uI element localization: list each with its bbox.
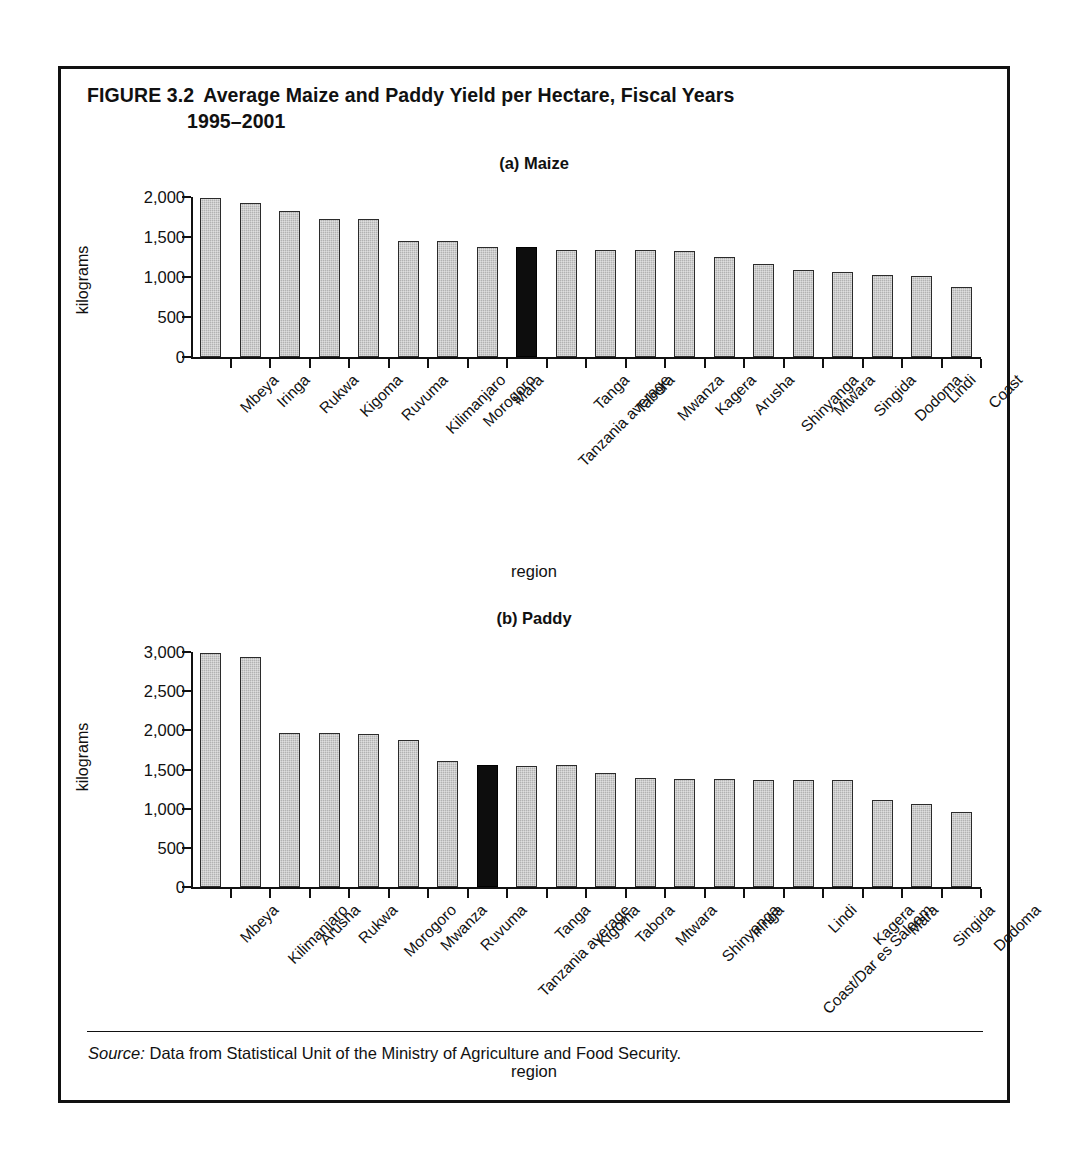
x-tick-mark bbox=[269, 359, 271, 368]
figure-title: FIGURE 3.2Average Maize and Paddy Yield … bbox=[87, 83, 977, 135]
x-tick-label-text: Rukwa bbox=[355, 901, 401, 947]
bar bbox=[595, 250, 616, 357]
y-tick-mark bbox=[182, 847, 191, 849]
x-tick-label-text: Coast bbox=[985, 371, 1026, 412]
y-tick-label: 2,500 bbox=[144, 682, 185, 701]
x-axis-title-maize: region bbox=[61, 562, 1007, 581]
y-tick-label: 500 bbox=[157, 838, 185, 857]
figure-title-line-1: Average Maize and Paddy Yield per Hectar… bbox=[203, 84, 734, 106]
y-axis-line bbox=[191, 652, 193, 887]
bar bbox=[872, 800, 893, 887]
y-tick-mark bbox=[182, 729, 191, 731]
y-tick-label: 1,500 bbox=[144, 760, 185, 779]
panel-title-maize: (a) Maize bbox=[61, 154, 1007, 173]
x-tick-label: Dodoma bbox=[990, 901, 1044, 955]
y-tick-label: 1,000 bbox=[144, 268, 185, 287]
x-tick-mark bbox=[309, 359, 311, 368]
x-tick-label: Iringa bbox=[748, 901, 788, 941]
bar bbox=[477, 765, 498, 887]
bar bbox=[200, 198, 221, 357]
bar bbox=[240, 657, 261, 887]
y-tick-mark bbox=[182, 769, 191, 771]
x-tick-mark bbox=[704, 889, 706, 898]
x-tick-mark bbox=[901, 359, 903, 368]
x-tick-mark bbox=[467, 889, 469, 898]
bar bbox=[556, 765, 577, 887]
x-tick-label-text: Mbeya bbox=[236, 901, 282, 947]
x-tick-mark bbox=[388, 889, 390, 898]
x-tick-mark bbox=[309, 889, 311, 898]
chart-maize: kilograms 05001,0001,5002,000 MbeyaIring… bbox=[61, 189, 1007, 599]
x-tick-label-text: Iringa bbox=[748, 901, 788, 941]
bar bbox=[832, 780, 853, 887]
x-tick-label: Mbeya bbox=[236, 371, 282, 417]
y-tick-label: 1,000 bbox=[144, 799, 185, 818]
x-tick-label-text: Lindi bbox=[825, 901, 861, 937]
bar bbox=[872, 275, 893, 357]
source-label: Source: bbox=[88, 1044, 145, 1062]
y-tick-mark bbox=[182, 276, 191, 278]
x-tick-mark bbox=[348, 889, 350, 898]
x-tick-label-text: Mbeya bbox=[236, 371, 282, 417]
bar bbox=[358, 219, 379, 357]
x-tick-label-text: Iringa bbox=[274, 371, 314, 411]
x-tick-mark bbox=[743, 359, 745, 368]
source-note: Source: Data from Statistical Unit of th… bbox=[88, 1044, 681, 1063]
x-tick-mark bbox=[388, 359, 390, 368]
bar bbox=[477, 247, 498, 357]
bar bbox=[635, 250, 656, 357]
y-tick-mark bbox=[182, 886, 191, 888]
y-tick-mark bbox=[182, 196, 191, 198]
x-tick-mark bbox=[664, 359, 666, 368]
x-tick-mark bbox=[743, 889, 745, 898]
bar bbox=[674, 779, 695, 887]
bar bbox=[398, 740, 419, 887]
y-tick-mark bbox=[182, 236, 191, 238]
x-tick-label: Lindi bbox=[825, 901, 861, 937]
bar bbox=[793, 780, 814, 887]
bar bbox=[556, 250, 577, 357]
bar bbox=[911, 276, 932, 357]
x-tick-mark bbox=[506, 889, 508, 898]
y-tick-label: 1,500 bbox=[144, 228, 185, 247]
x-tick-label: Rukwa bbox=[316, 371, 362, 417]
x-tick-mark bbox=[585, 359, 587, 368]
x-axis-title-paddy: region bbox=[61, 1062, 1007, 1081]
y-tick-label: 2,000 bbox=[144, 188, 185, 207]
bar bbox=[674, 251, 695, 357]
bar bbox=[437, 761, 458, 887]
x-tick-mark bbox=[980, 359, 982, 368]
x-tick-mark bbox=[980, 889, 982, 898]
figure-number: FIGURE 3.2 bbox=[87, 84, 194, 106]
y-tick-mark bbox=[182, 690, 191, 692]
source-text: Data from Statistical Unit of the Minist… bbox=[145, 1044, 681, 1062]
x-tick-label: Ruvuma bbox=[398, 371, 452, 425]
y-axis-line bbox=[191, 197, 193, 357]
x-tick-mark bbox=[783, 359, 785, 368]
bar bbox=[516, 247, 537, 357]
x-tick-mark bbox=[427, 889, 429, 898]
x-tick-mark bbox=[941, 359, 943, 368]
x-tick-mark bbox=[230, 359, 232, 368]
x-tick-label: Arusha bbox=[751, 371, 798, 418]
y-tick-mark bbox=[182, 651, 191, 653]
figure-container: FIGURE 3.2Average Maize and Paddy Yield … bbox=[58, 66, 1010, 1103]
bar bbox=[635, 778, 656, 887]
x-tick-mark bbox=[546, 359, 548, 368]
bar bbox=[753, 264, 774, 357]
y-tick-label: 500 bbox=[157, 308, 185, 327]
x-tick-mark bbox=[230, 889, 232, 898]
x-tick-mark bbox=[269, 889, 271, 898]
bar bbox=[911, 804, 932, 887]
bar bbox=[319, 219, 340, 357]
bar bbox=[398, 241, 419, 357]
x-tick-label: Mtwara bbox=[672, 901, 721, 950]
x-tick-mark bbox=[941, 889, 943, 898]
x-tick-mark bbox=[625, 889, 627, 898]
x-tick-label-text: Rukwa bbox=[316, 371, 362, 417]
x-tick-mark bbox=[348, 359, 350, 368]
bar bbox=[832, 272, 853, 357]
x-tick-label: Rukwa bbox=[355, 901, 401, 947]
bar bbox=[793, 270, 814, 357]
bar bbox=[951, 812, 972, 887]
